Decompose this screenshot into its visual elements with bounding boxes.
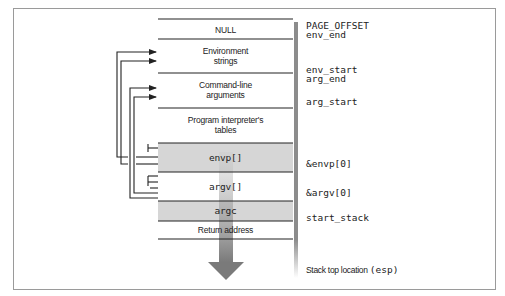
- cell-argv: argv[]: [158, 182, 293, 192]
- cell-interpreter-tables-line1: Program interpreter's: [158, 115, 293, 125]
- cell-argc: argc: [158, 206, 293, 216]
- cell-command-line-arguments-line1: Command-line: [158, 80, 293, 90]
- cell-interpreter-tables-line2: tables: [158, 125, 293, 135]
- cell-null: NULL: [158, 25, 293, 35]
- cell-command-line-arguments-line2: arguments: [158, 90, 293, 100]
- column-shadow: [294, 22, 298, 278]
- cell-command-line-arguments: Command-line arguments: [158, 80, 293, 100]
- stack-diagram: [0, 0, 505, 296]
- pointer-connectors: [117, 52, 158, 198]
- label-arg-end: arg_end: [306, 74, 346, 83]
- cell-environment-strings: Environment strings: [158, 46, 293, 66]
- cell-envp: envp[]: [158, 153, 293, 163]
- cell-environment-strings-line2: strings: [158, 56, 293, 66]
- label-stack-top: Stack top location (esp): [306, 265, 398, 275]
- label-arg-start: arg_start: [306, 97, 357, 106]
- label-argv0: &argv[0]: [306, 188, 352, 197]
- cell-interpreter-tables: Program interpreter's tables: [158, 115, 293, 135]
- cell-return-address: Return address: [158, 225, 293, 235]
- label-start-stack: start_stack: [306, 213, 369, 222]
- label-env-end: env_end: [306, 30, 346, 39]
- label-stack-top-text: Stack top location: [306, 265, 370, 275]
- label-envp0: &envp[0]: [306, 159, 352, 168]
- cell-environment-strings-line1: Environment: [158, 46, 293, 56]
- label-stack-top-register: (esp): [370, 264, 399, 275]
